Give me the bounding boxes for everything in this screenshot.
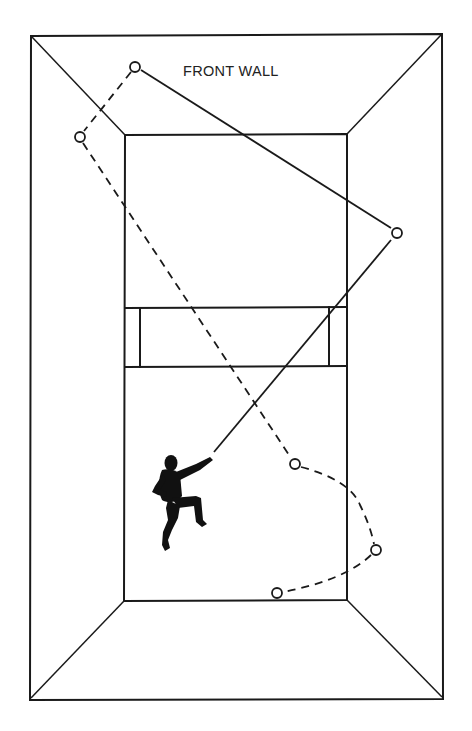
shot-path-side-wall-to-floor bbox=[83, 143, 291, 458]
shot-path-racket-to-side-wall bbox=[214, 240, 391, 452]
player-silhouette-icon bbox=[152, 455, 213, 551]
bounce-marker-2 bbox=[75, 132, 85, 142]
shot-path-floor-to-side-wall bbox=[301, 467, 374, 544]
racquetball-court-diagram: FRONT WALL bbox=[0, 0, 472, 731]
shot-path-front-wall-to-side-wall bbox=[84, 72, 131, 131]
shot-path-side-wall-to-front-wall bbox=[141, 70, 391, 228]
bounce-marker-6 bbox=[272, 588, 282, 598]
bounce-marker-3 bbox=[392, 228, 402, 238]
bounce-marker-4 bbox=[290, 459, 300, 469]
bounce-marker-5 bbox=[371, 545, 381, 555]
shot-path-side-wall-to-back bbox=[283, 555, 371, 592]
bounce-marker-1 bbox=[130, 62, 140, 72]
front-wall-label: FRONT WALL bbox=[183, 63, 279, 79]
shot-paths bbox=[83, 70, 391, 592]
service-zone bbox=[125, 307, 347, 367]
